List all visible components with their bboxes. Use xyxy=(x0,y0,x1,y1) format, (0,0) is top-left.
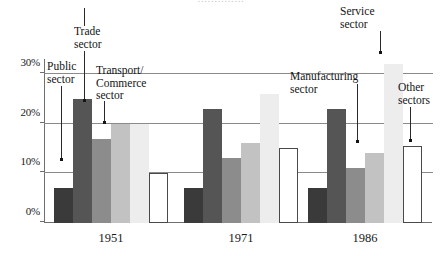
leader-dot-trade-sector xyxy=(83,99,86,102)
leader-transport-sector xyxy=(104,101,105,123)
ytick-label-20: 20% xyxy=(20,106,40,118)
annotation-other-sectors: Other sectors xyxy=(398,81,430,106)
annotation-service-sector: Service sector xyxy=(340,5,374,30)
leader-dot-other-sectors xyxy=(409,139,412,142)
annotation-public-sector-line2: sector xyxy=(47,73,76,86)
leader-service-sector xyxy=(380,31,381,52)
ytick-mark-20 xyxy=(40,122,44,123)
bar-1986-other-sectors xyxy=(403,146,422,223)
ytick-label-10: 10% xyxy=(20,155,40,167)
annotation-public-sector: Public sector xyxy=(47,60,76,85)
leader-other-sectors xyxy=(410,107,411,141)
bar-1971-transport-sector xyxy=(241,143,260,223)
annotation-trade-sector-line2: sector xyxy=(74,38,101,51)
ytick-mark-10 xyxy=(40,171,44,172)
bar-1986-trade-sector xyxy=(346,168,365,223)
leader-manufacturing xyxy=(357,84,358,142)
annotation-other-sectors-line1: Other xyxy=(398,81,430,94)
annotation-trade-sector-line1: Trade xyxy=(74,25,101,38)
leader-dot-transport-sector xyxy=(103,121,106,124)
bar-1986-public-sector xyxy=(308,188,327,223)
annotation-transport-sector: Transport/ Commerce sector xyxy=(96,64,146,102)
leader-dot-public-sector xyxy=(60,158,63,161)
bar-1986-transport-sector xyxy=(365,153,384,223)
chart-figure: .............. 30% 20% 10% 0% 1951 xyxy=(0,0,442,256)
bar-1971-trade-sector xyxy=(222,158,241,223)
bar-1951-other-sectors xyxy=(149,173,168,223)
ytick-label-30: 30% xyxy=(20,56,40,68)
bar-1951-service-sector xyxy=(130,124,149,223)
xaxis-label-1986: 1986 xyxy=(353,231,378,246)
bar-group-1971: 1971 xyxy=(184,59,298,223)
annotation-service-sector-line2: sector xyxy=(340,18,374,31)
annotation-transport-sector-line1: Transport/ xyxy=(96,64,146,77)
leader-public-sector xyxy=(61,86,62,160)
annotation-manufacturing-line2: sector xyxy=(290,83,358,96)
bar-1951-public-sector xyxy=(54,188,73,223)
ytick-label-0: 0% xyxy=(26,205,40,217)
leader-dot-manufacturing xyxy=(356,140,359,143)
bar-1951-manufacturing xyxy=(73,99,92,223)
annotation-manufacturing-line1: Manufacturing xyxy=(290,70,358,83)
bar-1971-manufacturing xyxy=(203,109,222,223)
annotation-trade-sector: Trade sector xyxy=(74,25,101,50)
bar-1951-trade-sector xyxy=(92,139,111,223)
bar-1971-public-sector xyxy=(184,188,203,223)
clipped-header-text: .............. xyxy=(0,0,442,5)
annotation-transport-sector-line2: Commerce xyxy=(96,77,146,90)
leader-dot-service-sector xyxy=(379,51,382,54)
annotation-manufacturing: Manufacturing sector xyxy=(290,70,358,95)
annotation-other-sectors-line2: sectors xyxy=(398,94,430,107)
annotation-public-sector-line1: Public xyxy=(47,60,76,73)
bar-1971-other-sectors xyxy=(279,148,298,223)
annotation-service-sector-line1: Service xyxy=(340,5,374,18)
ytick-mark-0 xyxy=(40,221,44,222)
leader-trade-sector-b xyxy=(84,51,85,101)
bar-1951-transport-sector xyxy=(111,124,130,223)
bar-1971-service-sector xyxy=(260,94,279,223)
leader-trade-sector xyxy=(84,8,85,26)
xaxis-label-1951: 1951 xyxy=(99,231,124,246)
annotation-transport-sector-line3: sector xyxy=(96,89,146,102)
ytick-mark-30 xyxy=(40,72,44,73)
bar-1986-manufacturing xyxy=(327,109,346,223)
xaxis-label-1971: 1971 xyxy=(229,231,254,246)
